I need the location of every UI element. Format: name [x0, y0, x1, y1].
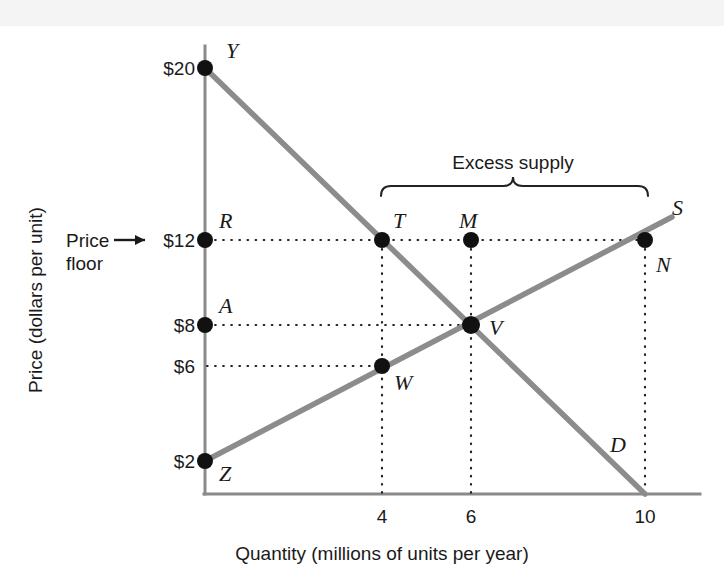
y-tick-20: $20 — [163, 58, 195, 79]
x-tick-6: 6 — [466, 506, 477, 527]
excess-supply-label: Excess supply — [452, 152, 574, 173]
point-V — [462, 316, 480, 334]
demand-curve — [205, 68, 645, 494]
x-tick-4: 4 — [377, 506, 388, 527]
figure-root: Excess supply Price floor $20 $12 $8 $6 … — [0, 0, 724, 584]
point-label-W: W — [394, 370, 414, 395]
point-R — [197, 232, 213, 248]
point-label-V: V — [489, 315, 505, 340]
y-tick-8: $8 — [174, 315, 195, 336]
point-Z — [197, 453, 213, 469]
y-axis-title: Price (dollars per unit) — [25, 207, 46, 393]
point-label-T: T — [393, 208, 407, 233]
price-floor-label-line2: floor — [66, 253, 104, 274]
point-label-A: A — [217, 293, 233, 318]
point-label-N: N — [655, 252, 672, 277]
supply-demand-chart: Excess supply Price floor $20 $12 $8 $6 … — [0, 0, 724, 584]
x-axis-title: Quantity (millions of units per year) — [235, 543, 529, 564]
supply-curve — [205, 217, 672, 461]
y-tick-6: $6 — [174, 356, 195, 377]
point-W — [374, 358, 390, 374]
point-label-M: M — [458, 208, 479, 233]
price-floor-label-line1: Price — [66, 230, 109, 251]
point-M — [463, 232, 479, 248]
excess-supply-bracket — [381, 177, 648, 196]
point-Y — [197, 60, 213, 76]
demand-curve-label: D — [609, 432, 626, 457]
point-N — [637, 232, 653, 248]
point-label-Y: Y — [226, 38, 241, 63]
point-label-Z: Z — [219, 461, 232, 486]
y-tick-2: $2 — [174, 451, 195, 472]
right-arrow-icon — [114, 235, 145, 245]
point-T — [374, 232, 390, 248]
point-A — [197, 317, 213, 333]
x-tick-10: 10 — [634, 506, 655, 527]
point-label-R: R — [218, 208, 233, 233]
y-tick-12: $12 — [163, 230, 195, 251]
supply-curve-label: S — [672, 195, 683, 220]
